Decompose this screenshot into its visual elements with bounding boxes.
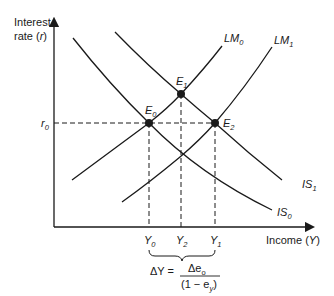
lm1-label: LM1 — [274, 34, 293, 49]
e2-label: E2 — [223, 117, 235, 132]
e0-label: E0 — [145, 104, 157, 119]
y1-label: Y1 — [210, 234, 222, 249]
is0-label: IS0 — [277, 206, 292, 221]
y-axis-label-line1: Interest — [14, 16, 51, 28]
y2-label: Y2 — [176, 234, 188, 249]
e1-label: E1 — [176, 75, 188, 90]
formula-denominator: (1 − ey) — [181, 278, 217, 293]
formula-numerator: Δeo — [188, 262, 206, 277]
e0-point — [145, 119, 153, 127]
is1-curve — [115, 32, 282, 180]
lm1-curve — [122, 47, 272, 202]
delta-y-brace — [149, 250, 215, 261]
r0-label: r0 — [41, 117, 50, 132]
y0-label: Y0 — [144, 234, 156, 249]
is0-curve — [73, 38, 272, 210]
e2-point — [211, 119, 219, 127]
formula-lhs: ΔY = — [150, 265, 174, 277]
is-lm-diagram: Interest rate (r) Income (Y) LM0 LM1 IS0… — [0, 0, 334, 296]
e1-point — [177, 90, 185, 98]
is1-label: IS1 — [302, 178, 317, 193]
lm0-label: LM0 — [224, 32, 244, 47]
y-axis-label-line2: rate (r) — [14, 30, 47, 42]
x-axis-label: Income (Y) — [266, 234, 320, 246]
